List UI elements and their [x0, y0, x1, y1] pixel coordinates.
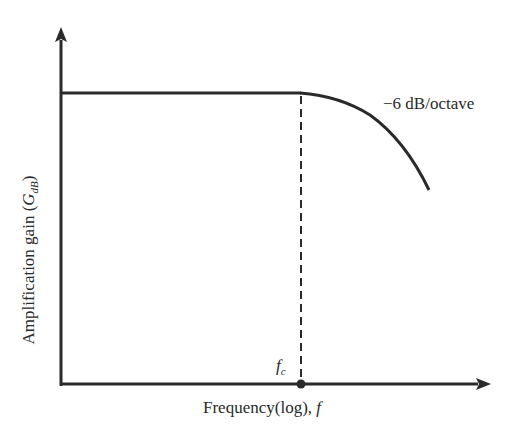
cutoff-label: fc: [276, 356, 286, 377]
x-axis-symbol: f: [316, 398, 321, 417]
y-axis-label: Amplification gain (GdB): [19, 176, 40, 345]
cutoff-subscript: c: [281, 365, 286, 377]
x-axis-label: Frequency(log), f: [203, 398, 321, 418]
x-axis-label-text: Frequency(log),: [203, 398, 316, 417]
cutoff-point: [297, 380, 306, 389]
y-axis-label-text: Amplification gain (: [19, 206, 38, 345]
y-axis-close: ): [19, 176, 38, 182]
slope-annotation: −6 dB/octave: [383, 94, 474, 114]
y-axis-arrow-icon: [55, 27, 67, 42]
bode-plot: [0, 0, 523, 440]
x-axis-arrow-icon: [476, 378, 491, 390]
y-axis-symbol: G: [19, 193, 38, 205]
y-axis-subscript: dB: [28, 181, 40, 193]
